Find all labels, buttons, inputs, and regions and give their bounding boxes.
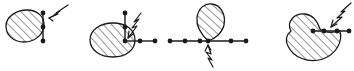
chain-vertex	[41, 39, 46, 44]
chain-vertex	[335, 29, 340, 34]
chain-vertex	[138, 39, 143, 44]
chain-vertex	[198, 39, 203, 44]
chain-vertex	[41, 25, 46, 30]
chain-vertex	[123, 11, 128, 16]
panel-1	[6, 5, 68, 43]
chain-vertex	[322, 29, 327, 34]
panel-4	[286, 3, 351, 61]
chain-vertex	[168, 39, 173, 44]
chain-vertex	[347, 29, 352, 34]
panel-3	[168, 4, 249, 67]
hatched-ellipse-region-1	[6, 10, 44, 42]
chain-vertex-corner	[123, 39, 128, 44]
chain-vertex	[244, 39, 249, 44]
hatched-teardrop-region-3	[197, 4, 225, 41]
chain-vertex	[153, 39, 158, 44]
pointer-arrow-icon	[331, 3, 351, 27]
chain-vertex	[183, 39, 188, 44]
chain-vertex	[311, 29, 316, 34]
chain-vertex	[206, 39, 211, 44]
panel-2	[90, 11, 157, 57]
pointer-arrow-head-icon	[49, 15, 55, 21]
figure-canvas	[0, 0, 354, 71]
hatched-ellipse-region-2	[90, 23, 135, 57]
chain-vertex	[41, 11, 46, 16]
chain-vertex	[123, 25, 128, 30]
chain-vertex	[229, 39, 234, 44]
diagram-svg	[0, 0, 354, 71]
